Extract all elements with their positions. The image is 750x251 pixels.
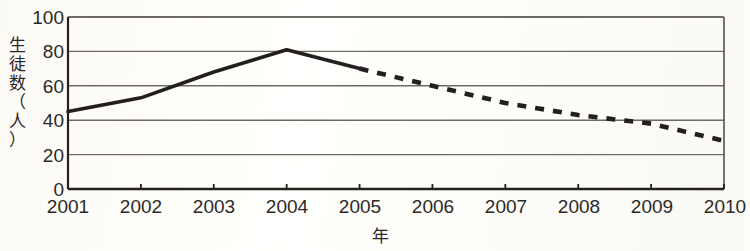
series-line-projected <box>360 69 724 141</box>
gridlines-group <box>68 17 724 155</box>
plot-frame <box>68 17 724 189</box>
series-line-actual <box>68 50 360 112</box>
data-series-group <box>68 50 724 141</box>
